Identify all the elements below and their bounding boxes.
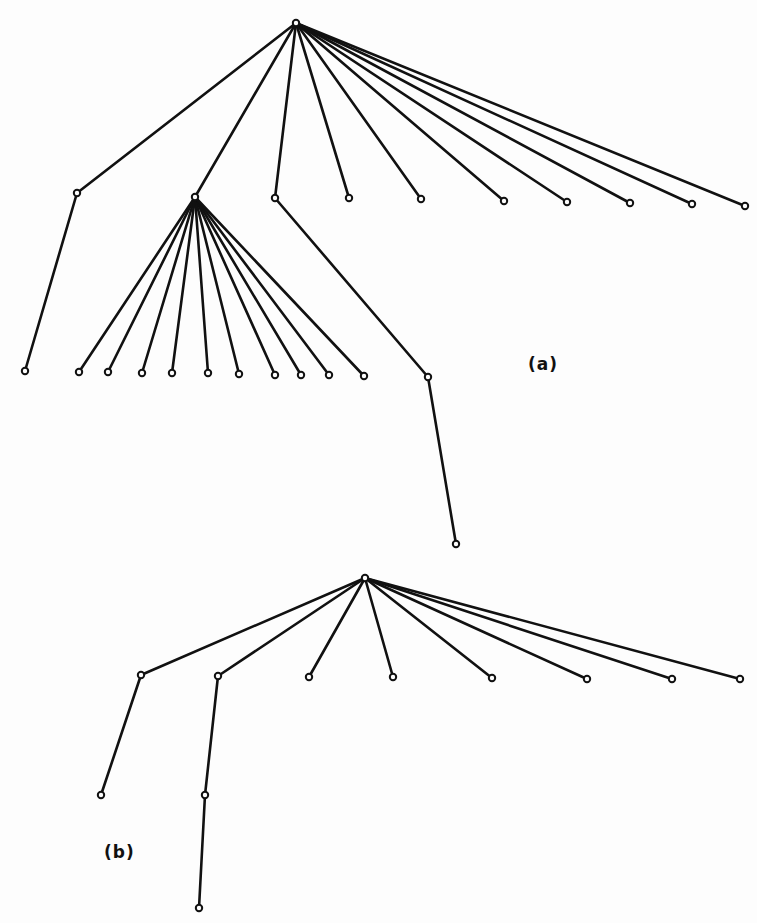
tree-edge — [275, 198, 428, 377]
tree-edge — [25, 193, 77, 371]
tree-edge — [77, 23, 296, 193]
tree-edge — [79, 197, 195, 372]
tree-a — [22, 20, 748, 547]
tree-node — [74, 190, 80, 196]
tree-node — [390, 674, 396, 680]
tree-node — [742, 203, 748, 209]
tree-node — [564, 199, 570, 205]
tree-edge — [296, 23, 630, 203]
tree-node — [669, 676, 675, 682]
tree-edge — [365, 578, 393, 677]
tree-node — [501, 198, 507, 204]
tree-node — [22, 368, 28, 374]
tree-edge — [195, 197, 364, 376]
tree-edge — [218, 578, 365, 676]
tree-b — [98, 575, 743, 911]
tree-edge — [141, 578, 365, 675]
tree-edge — [309, 578, 365, 677]
tree-edge — [199, 795, 205, 908]
tree-node — [215, 673, 221, 679]
tree-edge — [101, 675, 141, 795]
tree-node — [139, 370, 145, 376]
panel-label-a: (a) — [528, 354, 558, 374]
tree-node — [272, 372, 278, 378]
tree-node — [298, 372, 304, 378]
tree-edge — [195, 197, 301, 375]
tree-node — [98, 792, 104, 798]
tree-node — [627, 200, 633, 206]
tree-edge — [296, 23, 745, 206]
tree-edge — [172, 197, 195, 373]
tree-node — [418, 196, 424, 202]
tree-edge — [296, 23, 349, 198]
tree-node — [326, 372, 332, 378]
tree-node — [584, 676, 590, 682]
tree-node — [192, 194, 198, 200]
tree-node — [169, 370, 175, 376]
tree-node — [489, 675, 495, 681]
tree-node — [76, 369, 82, 375]
tree-node — [293, 20, 299, 26]
tree-node — [202, 792, 208, 798]
tree-edge — [296, 23, 504, 201]
tree-edge — [365, 578, 672, 679]
tree-node — [346, 195, 352, 201]
tree-node — [361, 373, 367, 379]
tree-node — [272, 195, 278, 201]
tree-edge — [296, 23, 567, 202]
tree-edge — [195, 23, 296, 197]
tree-edge — [205, 676, 218, 795]
tree-edge — [296, 23, 692, 204]
tree-node — [138, 672, 144, 678]
tree-node — [453, 541, 459, 547]
tree-edge — [275, 23, 296, 198]
tree-node — [425, 374, 431, 380]
tree-node — [205, 370, 211, 376]
panel-label-b: (b) — [104, 842, 135, 862]
tree-node — [689, 201, 695, 207]
tree-node — [362, 575, 368, 581]
tree-node — [737, 676, 743, 682]
tree-node — [196, 905, 202, 911]
tree-node — [236, 371, 242, 377]
tree-node — [306, 674, 312, 680]
tree-node — [105, 369, 111, 375]
tree-diagram — [0, 0, 757, 923]
tree-edge — [428, 377, 456, 544]
